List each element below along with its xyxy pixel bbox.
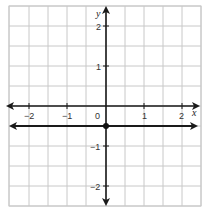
x-tick-label-1: 1 (142, 111, 147, 121)
x-tick-label-2: 2 (179, 111, 184, 121)
x-tick-label-neg2: −2 (24, 111, 34, 121)
y-axis-label: y (95, 8, 101, 19)
origin-label: 0 (95, 111, 100, 121)
y-tick-label-neg2: −2 (90, 182, 100, 192)
y-tick-label-1: 1 (96, 62, 101, 72)
y-tick-label-2: 2 (96, 22, 101, 32)
x-tick-label-neg1: −1 (62, 111, 72, 121)
y-tick-label-neg1: −1 (90, 142, 100, 152)
x-axis-label: x (191, 107, 197, 118)
point-0-neg-half (103, 123, 109, 129)
coordinate-plane: y x −2 −1 0 1 2 2 1 −1 −2 (0, 0, 203, 208)
